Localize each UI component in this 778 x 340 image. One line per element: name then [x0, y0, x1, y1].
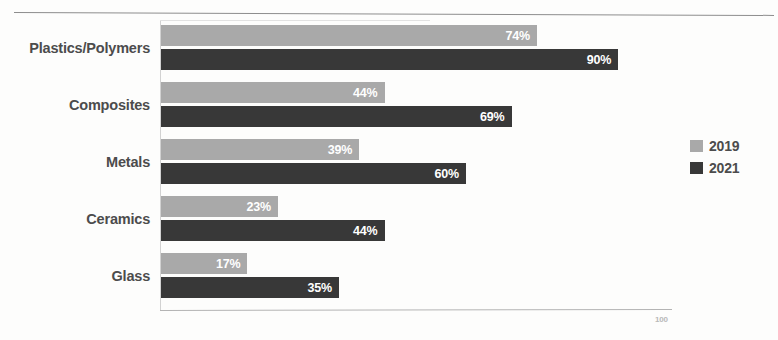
- bar-slot: 39%: [161, 139, 359, 160]
- bar-group: Glass17%35%: [0, 253, 778, 298]
- bar-2019: 44%: [161, 82, 385, 103]
- bar-value-label: 90%: [587, 53, 611, 67]
- bar-slot: 90%: [161, 49, 618, 70]
- legend-item-2019: 2019: [690, 136, 739, 156]
- bar-value-label: 69%: [480, 110, 504, 124]
- chart-legend: 2019 2021: [690, 136, 739, 180]
- bar-slot: 60%: [161, 163, 466, 184]
- category-label: Metals: [106, 154, 150, 170]
- bar-2019: 17%: [161, 253, 247, 274]
- bar-group: Ceramics23%44%: [0, 196, 778, 241]
- bar-slot: 44%: [161, 82, 385, 103]
- bar-2021: 35%: [161, 277, 339, 298]
- bar-slot: 17%: [161, 253, 247, 274]
- category-label: Plastics/Polymers: [29, 40, 150, 56]
- bar-value-label: 39%: [328, 143, 352, 157]
- bar-value-label: 17%: [216, 257, 240, 271]
- category-label: Glass: [112, 268, 151, 284]
- axis-tick-label-max: 100: [655, 315, 668, 324]
- bar-2021: 90%: [161, 49, 618, 70]
- bar-rows-container: Plastics/Polymers74%90%Composites44%69%M…: [0, 20, 778, 310]
- category-label: Ceramics: [86, 211, 150, 227]
- bar-slot: 69%: [161, 106, 512, 127]
- legend-swatch-icon-2019: [690, 140, 703, 152]
- bar-slot: 44%: [161, 220, 385, 241]
- bar-value-label: 60%: [434, 167, 458, 181]
- legend-item-2021: 2021: [690, 158, 739, 178]
- bar-2021: 44%: [161, 220, 385, 241]
- bar-slot: 74%: [161, 25, 537, 46]
- top-divider-rule: [14, 12, 774, 16]
- bar-2021: 69%: [161, 106, 512, 127]
- bar-2021: 60%: [161, 163, 466, 184]
- legend-label-2021: 2021: [709, 160, 739, 176]
- bar-group: Metals39%60%: [0, 139, 778, 184]
- bar-value-label: 35%: [307, 281, 331, 295]
- bar-group: Plastics/Polymers74%90%: [0, 25, 778, 70]
- bar-2019: 74%: [161, 25, 537, 46]
- bar-slot: 35%: [161, 277, 339, 298]
- bar-slot: 23%: [161, 196, 278, 217]
- bar-value-label: 23%: [246, 200, 270, 214]
- bar-value-label: 44%: [353, 224, 377, 238]
- bar-chart: Plastics/Polymers74%90%Composites44%69%M…: [0, 0, 778, 340]
- bar-2019: 23%: [161, 196, 278, 217]
- legend-swatch-icon-2021: [690, 162, 703, 174]
- category-label: Composites: [69, 97, 150, 113]
- bar-group: Composites44%69%: [0, 82, 778, 127]
- legend-label-2019: 2019: [709, 138, 739, 154]
- bar-value-label: 74%: [505, 29, 529, 43]
- bar-2019: 39%: [161, 139, 359, 160]
- bar-value-label: 44%: [353, 86, 377, 100]
